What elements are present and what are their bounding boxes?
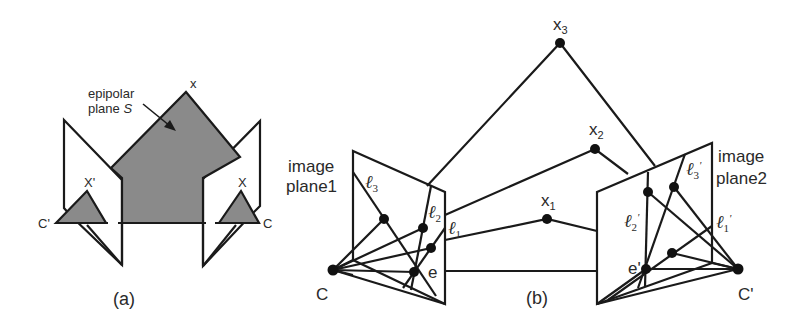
label-image-plane1-line1: image	[288, 157, 334, 176]
label-camera-c-prime: C'	[738, 285, 754, 304]
proj-x1-right	[667, 248, 677, 258]
proj-x2-right	[643, 187, 653, 197]
label-x2: x2	[589, 120, 604, 141]
point-x2	[590, 144, 600, 154]
figure-b: x3 x2 x1 image plane1 image plane2 C e e…	[286, 15, 767, 308]
label-l2-prime: ℓ2'	[624, 211, 640, 233]
proj-x2-left	[418, 223, 428, 233]
label-point-x: x	[190, 76, 197, 91]
proj-x1-left	[426, 243, 436, 253]
ray-x3	[427, 43, 655, 186]
proj-x3-right	[669, 182, 679, 192]
camera-c-prime	[733, 264, 744, 275]
label-c-a: C	[263, 216, 272, 231]
ray-cp-bottom	[597, 269, 738, 304]
label-epipole-e-prime: e'	[628, 259, 641, 278]
label-l2: ℓ2	[428, 202, 441, 224]
camera-c	[328, 265, 339, 276]
label-l3: ℓ3	[365, 172, 379, 194]
label-x-prime: X'	[84, 175, 95, 190]
label-x1: x1	[541, 191, 556, 212]
caption-a: (a)	[113, 289, 135, 309]
epipolar-label-line2: plane S	[88, 101, 132, 116]
epipole-e-prime	[641, 264, 651, 274]
ray-x1	[445, 219, 597, 240]
ray-c-e	[333, 270, 414, 272]
label-x3: x3	[553, 15, 568, 36]
label-image-plane1-line2: plane1	[286, 177, 337, 196]
epipolar-label-line1: epipolar	[88, 86, 135, 101]
label-image-plane2-line1: image	[718, 147, 764, 166]
epipolar-geometry-figure: epipolar plane S x X' X C' C (a)	[0, 0, 802, 334]
epipole-e	[409, 267, 419, 277]
point-x3	[555, 38, 565, 48]
label-epipole-e: e	[428, 263, 437, 282]
point-x1	[542, 214, 552, 224]
ray-x2	[445, 149, 628, 215]
label-image-plane2-line2: plane2	[716, 169, 767, 188]
label-x: X	[238, 175, 247, 190]
proj-x3-left	[379, 214, 389, 224]
label-c-prime-a: C'	[38, 216, 50, 231]
label-l3-prime: ℓ3'	[686, 159, 702, 181]
label-camera-c: C	[316, 285, 328, 304]
left-image-plane-a	[64, 120, 122, 265]
label-l1-prime: ℓ1'	[716, 212, 732, 234]
figure-a: epipolar plane S x X' X C' C (a)	[38, 76, 272, 309]
caption-b: (b)	[526, 288, 548, 308]
label-l1: ℓ1	[448, 218, 461, 240]
